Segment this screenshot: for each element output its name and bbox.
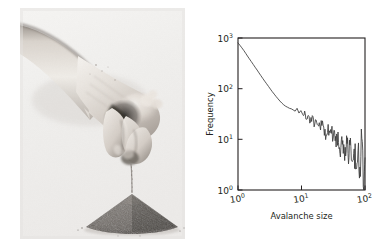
avalanche-size-chart: 103 102 101 100 100 101 — [196, 0, 387, 239]
y-tick-label: 101 — [218, 133, 233, 145]
chart-svg: 103 102 101 100 100 101 — [196, 0, 387, 239]
x-tick-labels: 100 101 102 — [229, 191, 373, 205]
plot-frame — [238, 38, 365, 190]
y-axis-title: Frequency — [205, 92, 215, 135]
y-tick-label: 103 — [218, 32, 233, 44]
sandpile-photo-panel — [20, 8, 185, 239]
y-tick-label: 100 — [218, 184, 233, 196]
photograph-image — [20, 8, 185, 239]
x-tick-label: 102 — [356, 191, 373, 205]
y-tick-labels: 103 102 101 100 — [218, 32, 233, 196]
film-grain-overlay — [20, 8, 185, 239]
x-axis-ticks — [238, 186, 365, 191]
x-axis-title: Avalanche size — [270, 211, 332, 221]
x-tick-label: 100 — [229, 191, 246, 205]
y-axis-ticks — [238, 38, 243, 190]
x-tick-label: 101 — [293, 191, 310, 205]
photograph — [20, 8, 185, 239]
avalanche-distribution-curve — [238, 43, 365, 190]
figure-root: 103 102 101 100 100 101 — [0, 0, 387, 239]
y-tick-label: 102 — [218, 83, 233, 95]
